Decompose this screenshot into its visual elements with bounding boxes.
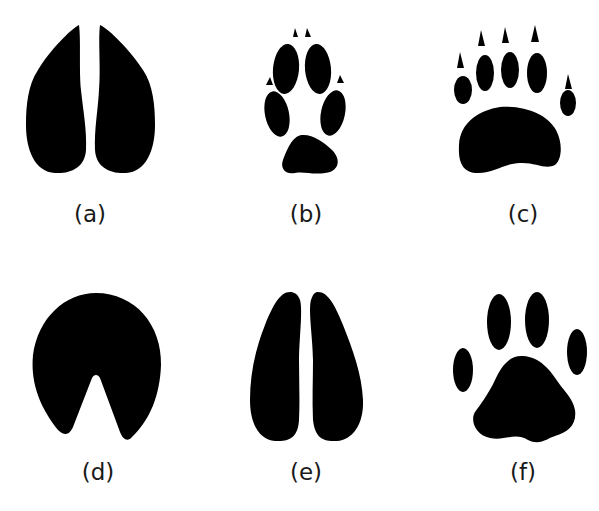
track-d-hoof (33, 293, 161, 440)
track-c (454, 25, 576, 173)
label-e: (e) (266, 458, 346, 486)
track-a (26, 25, 155, 173)
track-d (33, 293, 161, 440)
track-b-claw (305, 28, 311, 37)
label-b: (b) (266, 200, 346, 228)
label-a: (a) (50, 200, 130, 228)
track-a-right-toe (95, 25, 155, 173)
track-c-claw (565, 74, 572, 89)
track-c-toe (454, 76, 472, 104)
track-c-claw (502, 27, 509, 43)
track-b-claw (293, 28, 298, 37)
track-e (250, 292, 363, 441)
track-e-left-toe (250, 292, 301, 441)
track-f-toe (525, 292, 549, 348)
track-c-claw (531, 25, 539, 42)
label-f: (f) (483, 458, 563, 486)
track-f-toe (567, 329, 587, 375)
track-b-heel-pad (282, 135, 338, 174)
track-f-toe (487, 294, 511, 350)
track-b-toe (260, 89, 293, 139)
track-f-toe (453, 348, 473, 392)
track-c-claw (457, 52, 464, 68)
track-f (453, 292, 587, 442)
label-c: (c) (483, 200, 563, 228)
track-c-claw (478, 30, 485, 46)
track-b (260, 28, 349, 174)
track-b-claw (266, 77, 273, 85)
track-b-toe (316, 88, 349, 138)
track-f-palm-pad (473, 356, 575, 442)
track-c-palm-pad (459, 107, 561, 173)
animal-tracks-figure (0, 0, 599, 511)
track-a-left-toe (26, 25, 86, 173)
track-c-toe (527, 53, 547, 93)
track-b-toe (303, 43, 333, 95)
track-b-toe (271, 43, 301, 95)
track-c-toe (560, 90, 576, 116)
track-c-toe (476, 55, 494, 91)
track-e-right-toe (310, 292, 363, 441)
label-d: (d) (58, 458, 138, 486)
track-b-claw (337, 75, 344, 83)
track-c-toe (501, 52, 519, 88)
